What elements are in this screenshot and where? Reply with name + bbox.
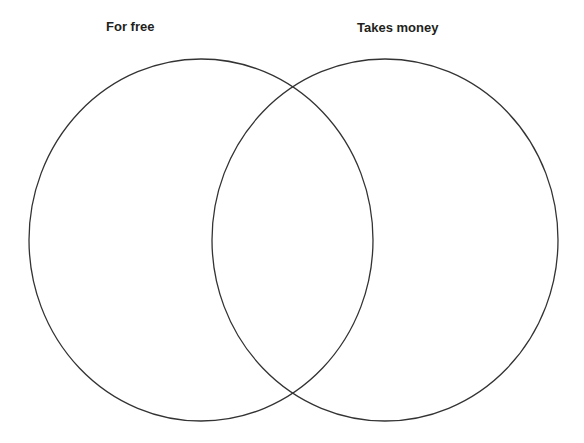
venn-circles	[0, 0, 584, 443]
circle-for-free	[29, 59, 373, 421]
circle-takes-money	[212, 59, 558, 421]
venn-diagram: For free Takes money	[0, 0, 584, 443]
